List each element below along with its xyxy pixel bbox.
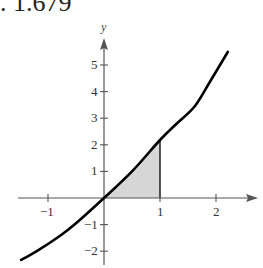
x-tick-label: −1 [40,204,54,219]
axes: y [18,20,258,265]
y-tick-label: 3 [91,110,98,125]
y-tick-label: 2 [91,137,98,152]
y-tick-label: −1 [84,217,98,232]
axis-ticks: −112−2−112345 [40,57,220,258]
y-axis-label: y [100,20,107,34]
chart-plot: y −112−2−112345 [0,0,263,268]
y-tick-label: 1 [91,163,98,178]
y-tick-label: 4 [91,84,98,99]
x-tick-label: 2 [213,204,220,219]
x-tick-label: 1 [157,204,164,219]
function-curve [21,52,228,260]
y-tick-label: −2 [84,243,98,258]
curve-line [21,52,228,260]
y-tick-label: 5 [91,57,98,72]
